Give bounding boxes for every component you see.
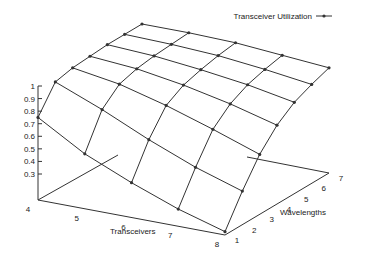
data-point [275,124,278,127]
y-tick-label: 1 [235,236,240,245]
x-tick-label: 7 [168,231,173,240]
data-point [165,104,168,107]
surface-mesh [36,22,330,233]
data-point [147,138,150,141]
x-tick-label: 8 [215,240,220,249]
x-axis-title: Transceivers [110,227,156,236]
data-point [130,181,133,184]
data-point [187,31,190,34]
z-tick-label: 1 [31,82,36,91]
data-point [194,166,197,169]
x-tick-label: 5 [75,214,80,223]
data-point [123,33,126,36]
z-tick-label: 0.4 [24,157,36,166]
data-point [118,83,121,86]
data-point [100,108,103,111]
data-point [182,83,185,86]
z-tick-label: 0.3 [24,170,36,179]
y-tick-label: 5 [304,195,309,204]
data-point [246,83,249,86]
data-point [310,83,313,86]
surface-chart: Transceiver Utilization 0.30.40.50.60.70… [0,0,384,256]
data-point [327,66,330,69]
data-point [177,207,180,210]
data-point [263,68,266,71]
data-point [211,128,214,131]
z-tick-label: 0.5 [24,145,36,154]
z-axis: 0.30.40.50.60.70.80.91 [24,82,42,200]
base-axes: 45678 1234567 [26,155,344,249]
data-point [241,190,244,193]
data-point [217,54,220,57]
data-point [71,66,74,69]
x-tick-label: 4 [26,205,31,214]
z-tick-label: 0.7 [24,120,36,129]
data-point [234,41,237,44]
data-point [229,102,232,105]
z-tick-label: 0.9 [24,95,36,104]
data-point [170,43,173,46]
data-point [140,22,143,25]
y-tick-label: 6 [321,184,326,193]
data-point [106,43,109,46]
y-tick-label: 3 [269,215,274,224]
data-point [199,68,202,71]
data-point [36,116,39,119]
data-point [83,152,86,155]
data-point [223,230,226,233]
data-point [135,67,138,70]
data-point [152,54,155,57]
data-point [258,153,261,156]
legend: Transceiver Utilization [234,12,332,21]
z-tick-label: 0.6 [24,132,36,141]
z-tick-label: 0.8 [24,107,36,116]
y-axis-title: Wavelengths [280,208,326,217]
data-point [281,54,284,57]
data-point [54,80,57,83]
legend-marker-icon [322,14,325,17]
y-tick-label: 2 [252,226,257,235]
y-tick-label: 7 [339,174,344,183]
data-point [293,101,296,104]
legend-label: Transceiver Utilization [234,12,312,21]
data-point [88,55,91,58]
